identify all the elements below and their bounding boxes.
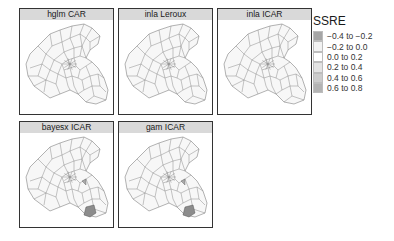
legend-label: −0.4 to −0.2 <box>327 31 372 41</box>
map-area <box>19 20 114 115</box>
choropleth-map <box>20 20 113 114</box>
facet-panel-inla-icar: inla ICAR <box>217 8 312 115</box>
legend-label: 0.0 to 0.2 <box>327 52 362 62</box>
legend-label: −0.2 to 0.0 <box>327 42 367 52</box>
legend-swatch <box>313 52 323 62</box>
legend-item: −0.4 to −0.2 <box>313 31 372 41</box>
choropleth-map <box>119 20 212 114</box>
legend-swatch <box>313 62 323 72</box>
map-area <box>19 133 114 228</box>
legend-swatch <box>313 83 323 93</box>
legend-swatch <box>313 31 323 41</box>
legend-item: 0.2 to 0.4 <box>313 62 372 72</box>
choropleth-map <box>218 20 311 114</box>
legend-label: 0.4 to 0.6 <box>327 73 362 83</box>
choropleth-map <box>20 133 113 227</box>
facet-panel-inla-leroux: inla Leroux <box>118 8 213 115</box>
legend-item: 0.6 to 0.8 <box>313 83 372 93</box>
legend: SSRE −0.4 to −0.2 −0.2 to 0.0 0.0 to 0.2… <box>313 14 372 93</box>
map-area <box>118 20 213 115</box>
legend-item: 0.4 to 0.6 <box>313 73 372 83</box>
map-area <box>217 20 312 115</box>
legend-title: SSRE <box>313 14 372 28</box>
legend-label: 0.2 to 0.4 <box>327 62 362 72</box>
facet-panel-hglm-car: hglm CAR <box>19 8 114 115</box>
legend-item: 0.0 to 0.2 <box>313 52 372 62</box>
legend-label: 0.6 to 0.8 <box>327 83 362 93</box>
legend-item: −0.2 to 0.0 <box>313 41 372 51</box>
facet-panel-gam-icar: gam ICAR <box>118 121 213 228</box>
facet-panel-bayesx-icar: bayesx ICAR <box>19 121 114 228</box>
map-area <box>118 133 213 228</box>
legend-swatch <box>313 73 323 83</box>
legend-swatch <box>313 41 323 51</box>
choropleth-map <box>119 133 212 227</box>
